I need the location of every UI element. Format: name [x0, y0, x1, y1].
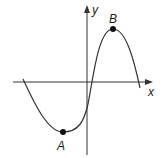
point-a-label: A	[56, 139, 65, 153]
x-axis-label: x	[147, 85, 155, 99]
point-b-label: B	[109, 12, 117, 26]
point-a	[60, 129, 66, 135]
y-axis	[84, 5, 90, 155]
x-axis	[13, 79, 153, 85]
point-b	[110, 26, 116, 32]
y-axis-arrow-icon	[84, 5, 90, 13]
function-curve	[23, 29, 140, 132]
function-graph: A B x y	[0, 0, 166, 158]
y-axis-label: y	[91, 3, 99, 17]
